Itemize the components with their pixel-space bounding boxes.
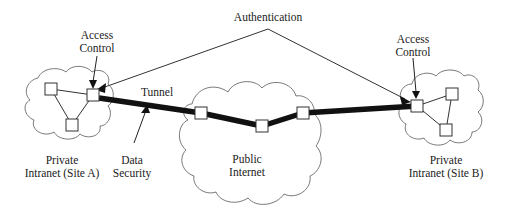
node-internet-3 — [297, 107, 309, 119]
label-access-control-right-2: Control — [395, 46, 430, 58]
label-tunnel: Tunnel — [141, 86, 173, 98]
node-site-a-gateway — [87, 89, 99, 101]
label-data-security-1: Data — [121, 154, 143, 166]
label-public-internet-1: Public — [232, 153, 261, 165]
vpn-diagram: Authentication Access Control Access Con… — [0, 0, 507, 213]
data-security-pointer — [134, 113, 145, 143]
label-site-b-1: Private — [430, 154, 463, 166]
cloud-public-internet — [179, 82, 321, 205]
node-site-b-2 — [446, 88, 458, 100]
label-access-control-left-1: Access — [81, 29, 114, 41]
label-site-a-1: Private — [46, 154, 79, 166]
label-site-b-2: Intranet (Site B) — [409, 167, 484, 180]
node-internet-1 — [195, 107, 207, 119]
label-authentication: Authentication — [234, 11, 303, 23]
label-access-control-left-2: Control — [79, 42, 114, 54]
node-site-b-gateway — [411, 100, 423, 112]
label-site-a-2: Intranet (Site A) — [25, 167, 100, 180]
node-internet-2 — [256, 120, 268, 132]
label-data-security-2: Security — [113, 167, 152, 180]
node-site-b-3 — [440, 124, 452, 136]
node-site-a-3 — [66, 119, 78, 131]
label-public-internet-2: Internet — [229, 166, 266, 178]
node-site-a-1 — [45, 83, 57, 95]
label-access-control-right-1: Access — [397, 33, 430, 45]
